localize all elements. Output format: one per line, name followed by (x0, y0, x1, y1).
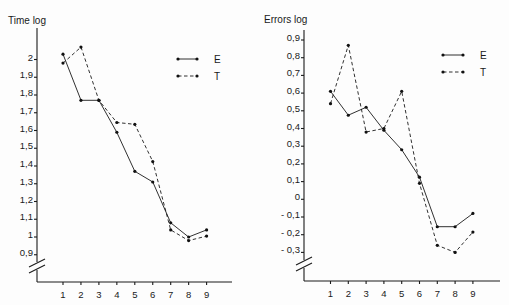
data-point (365, 106, 368, 109)
data-point (347, 44, 350, 47)
x-tick-label: 6 (417, 288, 422, 299)
data-point (400, 90, 403, 93)
data-point (400, 148, 403, 151)
x-tick-label: 8 (186, 289, 191, 300)
y-axis-ticks: 21,91,81,71,61,51,41,31,21,110,9 (20, 52, 37, 258)
y-tick-label: 1,4 (20, 158, 33, 169)
data-point (169, 221, 172, 224)
y-tick-label: 0,5 (287, 103, 300, 114)
chart-title: Errors log (264, 14, 307, 25)
data-point (418, 182, 421, 185)
y-tick-label: 0,6 (287, 85, 300, 96)
data-point (187, 235, 190, 238)
y-axis-ticks: 0,90,80,70,60,50,40,30,20,10- 0,1- 0,2- … (281, 32, 304, 255)
data-point (133, 170, 136, 173)
legend: ET (441, 50, 487, 78)
y-tick-label: 1,1 (20, 211, 33, 222)
y-tick-label: 0,4 (287, 121, 300, 132)
x-tick-label: 9 (470, 288, 475, 299)
y-tick-label: 1,6 (20, 123, 33, 134)
x-tick-label: 5 (132, 289, 137, 300)
series-e-line (331, 91, 473, 226)
y-tick-label: 1,2 (20, 194, 33, 205)
legend-marker (176, 74, 179, 77)
legend-label-t: T (480, 67, 486, 78)
data-point (151, 180, 154, 183)
y-tick-label: 0 (295, 191, 300, 202)
data-point (169, 228, 172, 231)
x-tick-label: 8 (452, 288, 457, 299)
legend: ET (176, 54, 221, 82)
legend-marker (461, 70, 464, 73)
y-tick-label: 1,3 (20, 176, 33, 187)
x-tick-label: 1 (60, 289, 65, 300)
y-tick-label: - 0,1 (281, 209, 300, 220)
x-tick-label: 4 (381, 288, 386, 299)
y-tick-label: 2 (28, 52, 33, 63)
y-tick-label: 0,7 (287, 67, 300, 78)
legend-marker (441, 70, 444, 73)
legend-marker (176, 57, 179, 60)
y-tick-label: 1,7 (20, 105, 33, 116)
y-tick-label: 1,9 (20, 69, 33, 80)
data-point (205, 235, 208, 238)
y-tick-label: 0,3 (287, 138, 300, 149)
data-point (205, 228, 208, 231)
time-log-chart: Time log 21,91,81,71,61,51,41,31,21,110,… (8, 15, 232, 300)
x-tick-label: 6 (150, 289, 155, 300)
y-tick-label: 1,5 (20, 140, 33, 151)
y-tick-label: - 0,2 (281, 227, 300, 238)
x-tick-label: 4 (114, 289, 119, 300)
x-tick-label: 3 (96, 289, 101, 300)
figure: Time log 21,91,81,71,61,51,41,31,21,110,… (0, 0, 509, 305)
data-point (436, 244, 439, 247)
x-tick-label: 3 (363, 288, 368, 299)
legend-marker (441, 53, 444, 56)
y-tick-label: 0,1 (287, 174, 300, 185)
data-point (365, 130, 368, 133)
y-tick-label: 1 (28, 229, 33, 240)
data-point (471, 230, 474, 233)
y-tick-label: 0,9 (20, 247, 33, 258)
series-lines (329, 44, 475, 254)
data-point (436, 225, 439, 228)
axes (296, 30, 500, 281)
data-point (133, 123, 136, 126)
x-tick-label: 2 (78, 289, 83, 300)
data-point (115, 121, 118, 124)
x-axis-ticks: 123456789 (328, 281, 476, 299)
x-tick-label: 7 (435, 288, 440, 299)
y-tick-label: 0,8 (287, 50, 300, 61)
data-point (61, 53, 64, 56)
data-point (151, 160, 154, 163)
y-tick-label: 1,8 (20, 87, 33, 98)
legend-label-e: E (480, 50, 487, 61)
dual-line-chart: Time log 21,91,81,71,61,51,41,31,21,110,… (0, 0, 509, 305)
legend-marker (461, 53, 464, 56)
x-tick-label: 1 (328, 288, 333, 299)
series-lines (61, 45, 208, 242)
chart-title: Time log (8, 15, 46, 26)
axes (29, 28, 232, 282)
legend-label-t: T (214, 71, 220, 82)
x-tick-label: 2 (346, 288, 351, 299)
legend-marker (195, 74, 198, 77)
y-tick-label: - 0,3 (281, 244, 300, 255)
legend-marker (195, 57, 198, 60)
data-point (329, 102, 332, 105)
errors-log-chart: Errors log 0,90,80,70,60,50,40,30,20,10-… (264, 14, 500, 299)
x-axis-ticks: 123456789 (60, 282, 209, 300)
data-point (115, 131, 118, 134)
data-point (347, 114, 350, 117)
y-tick-label: 0,9 (287, 32, 300, 43)
x-tick-label: 9 (204, 289, 209, 300)
data-point (471, 212, 474, 215)
data-point (97, 99, 100, 102)
y-tick-label: 0,2 (287, 156, 300, 167)
x-tick-label: 7 (168, 289, 173, 300)
data-point (79, 99, 82, 102)
series-e-line (63, 54, 207, 237)
x-tick-label: 5 (399, 288, 404, 299)
data-point (382, 127, 385, 130)
data-point (187, 239, 190, 242)
